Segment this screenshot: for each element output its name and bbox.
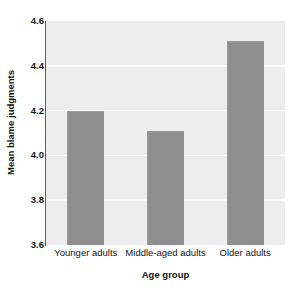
bar-chart-figure: Mean blame judgments 4.64.44.24.03.83.6 … (0, 0, 294, 293)
x-tick-label: Middle-aged adults (125, 248, 205, 258)
y-axis-tick-labels: 4.64.44.24.03.83.6 (18, 0, 44, 293)
y-tick-label: 3.8 (20, 195, 44, 205)
y-tick-label: 4.4 (20, 61, 44, 71)
x-tick-label: Older adults (220, 248, 271, 258)
bar (147, 131, 184, 245)
bar (227, 41, 264, 245)
x-axis-title: Age group (46, 270, 285, 280)
y-tick-label: 4.6 (20, 16, 44, 26)
y-axis-title-text: Mean blame judgments (6, 70, 17, 175)
y-tick-label: 4.2 (20, 106, 44, 116)
x-axis-tick-labels: Younger adultsMiddle-aged adultsOlder ad… (46, 248, 285, 264)
plot-area (46, 21, 285, 245)
y-tick-label: 4.0 (20, 151, 44, 161)
x-tick-label: Younger adults (54, 248, 117, 258)
y-tick-label: 3.6 (20, 240, 44, 250)
bar (67, 111, 104, 245)
